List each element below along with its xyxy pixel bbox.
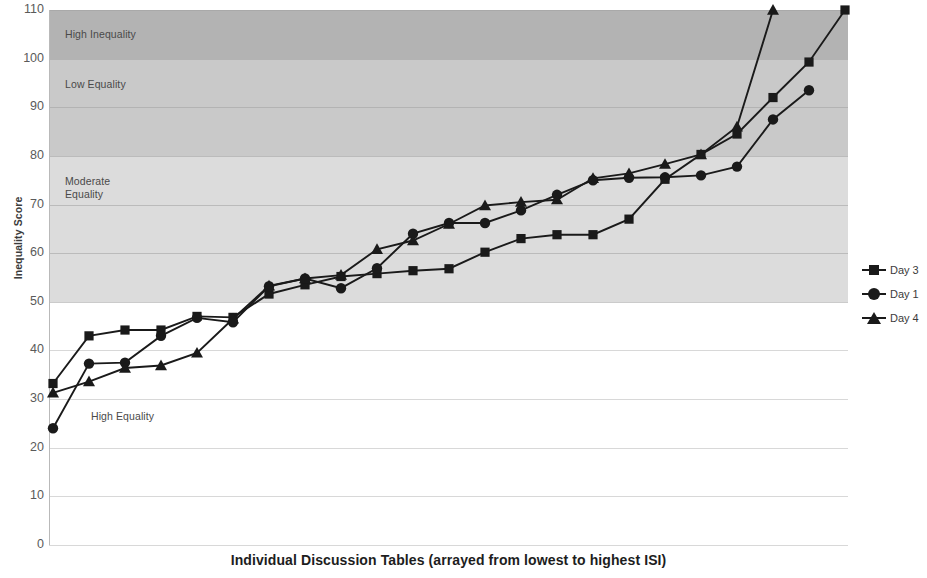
data-point <box>552 230 561 239</box>
data-point <box>336 283 346 293</box>
square-marker-icon <box>862 263 886 277</box>
data-point <box>48 423 58 433</box>
data-point <box>588 230 597 239</box>
data-point <box>192 313 202 323</box>
y-tick-110: 110 <box>4 2 44 16</box>
data-point <box>660 172 670 182</box>
data-point <box>767 4 779 15</box>
data-point <box>84 331 93 340</box>
data-point <box>48 379 57 388</box>
chart-legend: Day 3Day 1Day 4 <box>862 258 927 330</box>
legend-label: Day 1 <box>886 288 919 300</box>
y-tick-30: 30 <box>4 391 44 405</box>
data-point <box>624 215 633 224</box>
series-day-3 <box>48 5 849 388</box>
legend-label: Day 4 <box>886 312 919 324</box>
triangle-marker-icon <box>862 311 886 325</box>
gridline-0 <box>49 545 848 546</box>
y-tick-80: 80 <box>4 148 44 162</box>
legend-label: Day 3 <box>886 264 919 276</box>
data-point <box>480 218 490 228</box>
data-point <box>804 57 813 66</box>
data-point <box>480 248 489 257</box>
legend-item-day-3[interactable]: Day 3 <box>862 258 927 282</box>
y-tick-90: 90 <box>4 99 44 113</box>
inequality-score-chart: Inequality Score 11010090807060504030201… <box>0 0 927 578</box>
y-tick-40: 40 <box>4 342 44 356</box>
data-point <box>516 234 525 243</box>
y-tick-10: 10 <box>4 488 44 502</box>
y-tick-0: 0 <box>4 537 44 551</box>
y-axis-tick-labels: 1101009080706050403020100 <box>0 0 44 578</box>
y-tick-50: 50 <box>4 294 44 308</box>
data-point <box>768 93 777 102</box>
y-tick-20: 20 <box>4 440 44 454</box>
data-point <box>732 161 742 171</box>
data-point <box>120 325 129 334</box>
circle-marker-icon <box>862 287 886 301</box>
data-point <box>696 170 706 180</box>
data-point <box>731 121 743 132</box>
x-axis-title: Individual Discussion Tables (arrayed fr… <box>49 552 848 568</box>
data-point <box>156 331 166 341</box>
data-point <box>768 114 778 124</box>
data-point <box>804 85 814 95</box>
series-day-1 <box>48 85 814 433</box>
y-tick-70: 70 <box>4 197 44 211</box>
legend-item-day-1[interactable]: Day 1 <box>862 282 927 306</box>
data-point <box>408 266 417 275</box>
data-point <box>444 264 453 273</box>
series-line <box>53 10 845 384</box>
data-point <box>372 263 382 273</box>
y-tick-100: 100 <box>4 51 44 65</box>
plot-area: High InequalityLow EqualityModerate Equa… <box>49 10 848 545</box>
data-point <box>840 5 849 14</box>
series-layer <box>49 10 848 545</box>
y-tick-60: 60 <box>4 245 44 259</box>
data-point <box>84 358 94 368</box>
series-line <box>53 90 809 428</box>
legend-item-day-4[interactable]: Day 4 <box>862 306 927 330</box>
